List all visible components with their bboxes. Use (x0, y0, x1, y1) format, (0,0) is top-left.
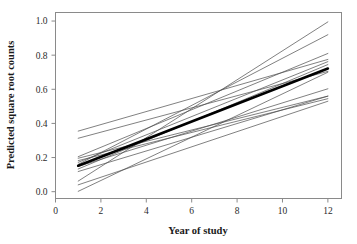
subject-trend-line (78, 59, 328, 131)
subject-trend-line (78, 35, 328, 165)
x-tick-label: 0 (53, 206, 58, 216)
y-tick-label: 0.4 (36, 119, 48, 129)
subject-trend-line (78, 62, 328, 163)
data-lines (78, 22, 328, 191)
y-tick-label: 0.6 (36, 85, 48, 95)
y-tick-label: 1.0 (36, 16, 48, 26)
chart-figure: 0246810120.00.20.40.60.81.0 Year of stud… (0, 0, 357, 244)
subject-trend-line (78, 72, 328, 191)
y-axis-title: Predicted square root counts (5, 41, 16, 170)
subject-trend-line (78, 22, 328, 181)
x-tick-label: 8 (235, 206, 240, 216)
spaghetti-plot: 0246810120.00.20.40.60.81.0 Year of stud… (0, 0, 357, 244)
x-tick-label: 10 (278, 206, 288, 216)
y-tick-label: 0.8 (36, 51, 48, 61)
subject-trend-line (78, 96, 328, 171)
x-tick-label: 12 (323, 206, 333, 216)
average-trend-line (78, 68, 328, 165)
subject-trend-line (78, 89, 328, 167)
y-tick-label: 0.0 (36, 187, 48, 197)
x-tick-label: 2 (99, 206, 104, 216)
subject-trend-line (78, 101, 328, 185)
x-tick-label: 4 (144, 206, 149, 216)
y-tick-label: 0.2 (36, 153, 48, 163)
x-tick-label: 6 (189, 206, 194, 216)
tick-labels: 0246810120.00.20.40.60.81.0 (36, 16, 333, 216)
x-axis-title: Year of study (168, 225, 228, 236)
